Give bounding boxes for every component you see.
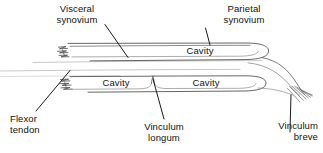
upper-cavity-inner-line	[72, 51, 258, 57]
leader-visceral-synovium	[105, 25, 128, 58]
lower-tendon-upper-fiber	[0, 69, 240, 71]
label-vinculum-longum: Vinculum longum	[131, 121, 197, 143]
tendon-sheath-diagram: Visceral synovium Parietal synovium Flex…	[0, 0, 323, 153]
label-flexor-tendon: Flexor tendon	[10, 113, 74, 135]
leader-parietal-synovium	[206, 28, 211, 45]
label-cavity-upper: Cavity	[176, 45, 224, 56]
leader-lines	[36, 25, 291, 133]
label-visceral-synovium: Visceral synovium	[44, 3, 110, 25]
upper-tendon-lower-fiber	[33, 61, 262, 63]
reflection-lower-curve	[258, 88, 293, 95]
leader-vinculum-longum	[153, 79, 164, 119]
upper-tendon-frayed-end	[58, 47, 70, 57]
label-cavity-lower-distal: Cavity	[182, 77, 230, 88]
label-cavity-lower-proximal: Cavity	[92, 77, 140, 88]
upper-tendon-sheath	[33, 43, 269, 63]
label-parietal-synovium: Parietal synovium	[208, 3, 280, 25]
leader-flexor-tendon	[36, 71, 70, 112]
label-vinculum-breve: Vinculum breve	[254, 120, 318, 142]
